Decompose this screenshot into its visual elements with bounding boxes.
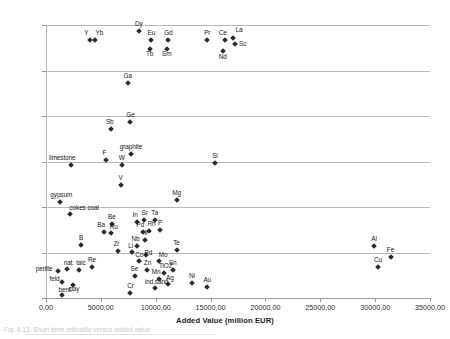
data-point[interactable] bbox=[212, 160, 218, 166]
data-point-label: Se bbox=[131, 265, 139, 272]
data-point[interactable] bbox=[57, 199, 63, 205]
x-axis-title: Added Value (million EUR) bbox=[0, 316, 450, 325]
data-point-label: V bbox=[119, 174, 123, 181]
data-point-label: Li bbox=[128, 242, 133, 249]
data-point-label: Mn bbox=[152, 268, 161, 275]
data-point-label: limestone bbox=[49, 154, 75, 161]
data-point[interactable] bbox=[142, 237, 148, 243]
data-point-label: Ga bbox=[124, 72, 132, 79]
data-point-label: Tb bbox=[146, 50, 153, 57]
data-point[interactable] bbox=[128, 119, 134, 125]
data-point[interactable] bbox=[204, 37, 210, 43]
data-point-label: Zr bbox=[113, 240, 119, 247]
data-point-label: Y bbox=[84, 29, 88, 36]
data-point[interactable] bbox=[174, 197, 180, 203]
data-point-label: perlite bbox=[36, 265, 53, 272]
x-tick-label: 25000,00 bbox=[305, 303, 335, 312]
data-point-label: Ir bbox=[144, 229, 148, 236]
gridline bbox=[46, 253, 430, 254]
data-point-label: Yb bbox=[96, 29, 104, 36]
data-point-label: Sc bbox=[239, 40, 246, 47]
data-point[interactable] bbox=[388, 254, 394, 260]
data-point[interactable] bbox=[93, 37, 99, 43]
data-point[interactable] bbox=[134, 243, 140, 249]
data-point[interactable] bbox=[152, 286, 158, 292]
data-point-label: Zn bbox=[144, 259, 151, 266]
data-point[interactable] bbox=[64, 266, 70, 272]
data-point[interactable] bbox=[375, 264, 381, 270]
data-point[interactable] bbox=[118, 183, 124, 189]
data-point[interactable] bbox=[76, 267, 82, 273]
data-point-label: TiO2 bbox=[159, 262, 172, 269]
data-point-label: Co bbox=[135, 251, 143, 258]
data-point[interactable] bbox=[101, 229, 107, 235]
data-point[interactable] bbox=[222, 37, 228, 43]
data-point[interactable] bbox=[232, 41, 238, 47]
gridline bbox=[46, 116, 430, 117]
caption-rule bbox=[26, 334, 216, 335]
data-point[interactable] bbox=[128, 291, 134, 297]
data-point[interactable] bbox=[230, 35, 236, 41]
data-point-label: Sb bbox=[106, 118, 114, 125]
data-point-label: Ru bbox=[110, 223, 118, 230]
x-tick-label: 15000,00 bbox=[196, 303, 226, 312]
data-point-label: Sm bbox=[162, 50, 171, 57]
data-point[interactable] bbox=[78, 242, 84, 248]
data-point[interactable] bbox=[129, 249, 135, 255]
x-tick-label: 10000,00 bbox=[141, 303, 171, 312]
data-point[interactable] bbox=[371, 243, 377, 249]
data-point-label: Rh bbox=[148, 220, 156, 227]
x-tick-label: 30000,00 bbox=[360, 303, 390, 312]
x-axis-line bbox=[46, 298, 430, 299]
data-point-label: feld bbox=[50, 275, 60, 282]
data-point[interactable] bbox=[68, 162, 74, 168]
plot-area: YYbDyEuGdTbSmPrCeLaScNdGaGeSbgraphiteFli… bbox=[46, 25, 430, 298]
data-point-label: Au bbox=[203, 276, 211, 283]
data-point-label: Al bbox=[371, 235, 376, 242]
data-point-label: Be bbox=[108, 213, 116, 220]
data-point-label: Mg bbox=[172, 189, 181, 196]
data-point-label: talc bbox=[76, 259, 86, 266]
data-point-label: Eu bbox=[148, 29, 156, 36]
data-point[interactable] bbox=[157, 227, 163, 233]
data-point[interactable] bbox=[148, 37, 154, 43]
data-point[interactable] bbox=[145, 267, 151, 273]
data-point-label: Gd bbox=[164, 29, 172, 36]
data-point[interactable] bbox=[108, 126, 114, 132]
x-tick-label: 0,00 bbox=[39, 303, 53, 312]
data-point-label: F bbox=[102, 149, 106, 156]
figure-caption: Fig. 4.13. Short term criticality versus… bbox=[4, 326, 444, 333]
data-point[interactable] bbox=[89, 264, 95, 270]
data-point[interactable] bbox=[108, 230, 114, 236]
data-point[interactable] bbox=[133, 274, 139, 280]
data-point[interactable] bbox=[55, 268, 61, 274]
gridline bbox=[46, 162, 430, 163]
data-point[interactable] bbox=[67, 211, 73, 217]
x-tick-label: 20000,00 bbox=[250, 303, 280, 312]
data-point-label: bent. bbox=[59, 286, 73, 293]
x-tick-mark bbox=[430, 298, 431, 302]
data-point[interactable] bbox=[136, 28, 142, 34]
data-point-label: Cr bbox=[127, 282, 134, 289]
data-point-label: Ta bbox=[151, 209, 158, 216]
data-point-label: Nd bbox=[219, 53, 227, 60]
data-point[interactable] bbox=[204, 284, 210, 290]
x-tick-label: 35000,00 bbox=[415, 303, 445, 312]
data-point-label: Si bbox=[212, 152, 217, 159]
data-point[interactable] bbox=[60, 292, 66, 298]
data-point[interactable] bbox=[189, 280, 195, 286]
data-point-label: Dy bbox=[135, 20, 143, 27]
data-point[interactable] bbox=[165, 37, 171, 43]
data-point[interactable] bbox=[125, 80, 131, 86]
data-point[interactable] bbox=[136, 258, 142, 264]
data-point-label: nat. bbox=[64, 259, 74, 266]
data-point[interactable] bbox=[60, 279, 66, 285]
data-point-label: Pr bbox=[204, 29, 210, 36]
data-point[interactable] bbox=[119, 162, 125, 168]
data-point[interactable] bbox=[128, 151, 134, 157]
data-point-label: Te bbox=[173, 239, 180, 246]
data-point-label: P bbox=[158, 219, 162, 226]
data-point-label: In bbox=[132, 211, 137, 218]
data-point-label: Fe bbox=[387, 246, 394, 253]
data-point-label: Ce bbox=[219, 29, 227, 36]
